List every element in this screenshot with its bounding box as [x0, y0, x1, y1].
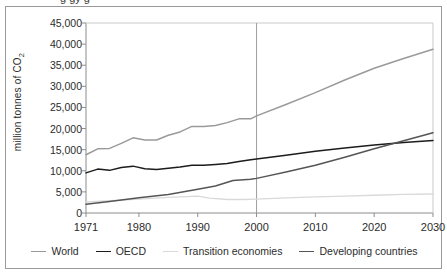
legend-item[interactable]: Developing countries — [299, 245, 417, 257]
x-tick-label: 2030 — [421, 221, 445, 233]
plot-area-wrapper: 45,00040,00035,00030,00025,00020,00015,0… — [6, 7, 443, 270]
y-tick-label: 10,000 — [30, 166, 82, 176]
x-tick-label: 1980 — [127, 221, 151, 233]
legend-item[interactable]: Transition economies — [163, 245, 282, 257]
series-line-oecd — [86, 140, 433, 173]
figure-container: g gy g million tonnes of CO2 45,00040,00… — [0, 0, 447, 274]
x-tick-label: 2000 — [244, 221, 268, 233]
legend-label: Transition economies — [183, 245, 282, 257]
x-axis-tick-labels: 1971198019902000201020202030 — [6, 215, 443, 237]
x-tick-label: 1990 — [185, 221, 209, 233]
chart-frame: million tonnes of CO2 45,00040,00035,000… — [5, 6, 442, 269]
legend-label: World — [51, 245, 78, 257]
legend-line-icon — [163, 251, 178, 252]
series-line-world — [86, 49, 433, 155]
y-tick-label: 40,000 — [30, 39, 82, 49]
y-tick-label: 35,000 — [30, 60, 82, 70]
series-line-developing-countries — [86, 133, 433, 204]
legend-label: Developing countries — [319, 245, 417, 257]
y-tick-label: 45,000 — [30, 18, 82, 28]
legend-label: OECD — [116, 245, 146, 257]
x-tick-label: 2010 — [303, 221, 327, 233]
x-tick-label: 1971 — [74, 221, 98, 233]
legend-line-icon — [96, 251, 111, 252]
y-tick-label: 5,000 — [30, 187, 82, 197]
legend-line-icon — [31, 251, 46, 252]
legend-line-icon — [299, 251, 314, 252]
x-tick-label: 2020 — [362, 221, 386, 233]
legend-item[interactable]: OECD — [96, 245, 146, 257]
y-tick-label: 15,000 — [30, 145, 82, 155]
clipped-title-text: g gy g — [60, 0, 90, 4]
y-tick-label: 25,000 — [30, 102, 82, 112]
y-tick-label: 30,000 — [30, 81, 82, 91]
y-tick-label: 20,000 — [30, 124, 82, 134]
chart-legend: WorldOECDTransition economiesDeveloping … — [6, 241, 443, 261]
legend-item[interactable]: World — [31, 245, 78, 257]
